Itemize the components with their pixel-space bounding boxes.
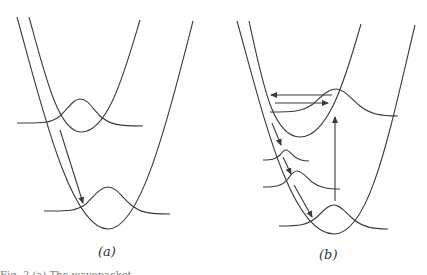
panel-label-b: (b) (319, 247, 337, 262)
upper-wavepacket-a (17, 99, 143, 126)
upper-potential-curve-a (29, 17, 140, 132)
relaxation-arrow-b-2 (283, 157, 291, 174)
panel-label-a: (a) (98, 244, 116, 259)
intermediate-wavepacket-b-1 (263, 150, 309, 161)
panel-a (17, 17, 193, 229)
figure-caption: Fig. 2 (a) The wavepacket ... (0, 268, 427, 275)
upper-potential-curve-b (249, 21, 361, 137)
panel-b (237, 21, 415, 234)
intermediate-wavepacket-b-2 (263, 171, 340, 189)
figure-canvas (0, 0, 427, 275)
relaxation-arrow-a (60, 130, 83, 203)
lower-wavepacket-b (279, 205, 388, 229)
lower-wavepacket-a (44, 187, 170, 214)
lower-potential-curve-b (237, 21, 415, 234)
relaxation-arrow-b-1 (272, 123, 281, 145)
